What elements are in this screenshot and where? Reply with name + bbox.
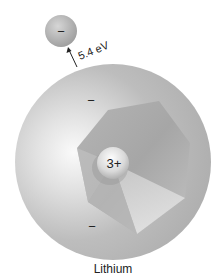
inner-electron-top: − xyxy=(87,93,95,108)
ionization-energy-label: 5.4 eV xyxy=(76,39,111,62)
ionization-arrow xyxy=(67,47,78,67)
nucleus-charge-label: 3+ xyxy=(107,156,122,171)
valence-electron-symbol: − xyxy=(57,24,65,39)
inner-electron-bottom: − xyxy=(88,219,96,234)
element-label: Lithium xyxy=(94,262,133,276)
lithium-atom-diagram: 3+ − − − 5.4 eV Lithium xyxy=(0,0,224,277)
